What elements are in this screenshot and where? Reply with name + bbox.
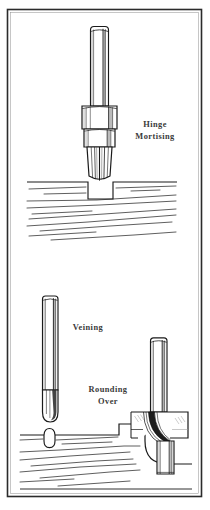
router-bits-illustration: Hinge Mortising (0, 0, 210, 510)
rounding-over-bit-pilot-bearing (157, 441, 174, 474)
label-rounding-over-line1: Rounding (89, 385, 128, 394)
bit-tapered-cutter (87, 147, 112, 181)
bit-shank (91, 27, 109, 107)
bit-collar-ring (84, 129, 115, 147)
label-hinge-mortising-line1: Hinge (143, 120, 167, 129)
veining-bit (43, 296, 59, 422)
figure-frame: Hinge Mortising (0, 0, 210, 510)
veining-bit-round-nose-cutter (43, 390, 59, 422)
label-hinge-mortising-line2: Mortising (135, 132, 175, 141)
u-groove-vein (44, 435, 55, 448)
bit-upper-collar (82, 106, 117, 129)
label-rounding-over-line2: Over (98, 397, 118, 406)
label-veining: Veining (73, 323, 104, 332)
